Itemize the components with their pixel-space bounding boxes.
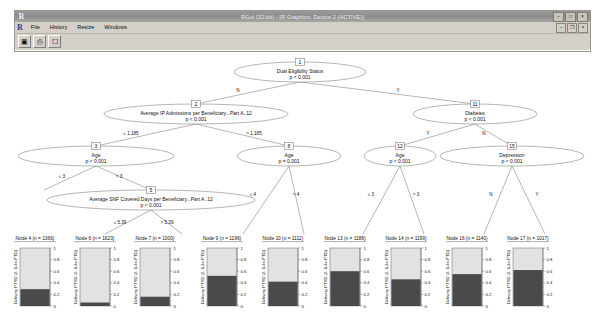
inner-node-5[interactable]: 5Average SNF Covered Days per Beneficiar…: [47, 187, 255, 211]
terminal-node-label-13: Node 13 (n = 1188): [324, 236, 366, 241]
maximize-button[interactable]: □: [565, 12, 576, 22]
edge-11-12: [400, 124, 475, 146]
y-tick-label-6-2: 0.4: [113, 280, 119, 285]
y-tick-label-14-2: 0.4: [424, 280, 430, 285]
edge-12-14: [400, 166, 424, 234]
edge-3-5: [96, 166, 151, 190]
new-graphics-window-button[interactable]: ☐: [48, 35, 61, 48]
title-bar[interactable]: R RGui (32-bit) - [R Graphics: Device 2 …: [15, 11, 590, 22]
node-id-label-15: 15: [509, 143, 515, 149]
node-id-label-12: 12: [397, 143, 403, 149]
y-tick-label-14-4: 0.8: [424, 257, 430, 262]
edge-12-13: [363, 166, 400, 234]
terminal-node-17[interactable]: Node 17 (n = 1017)00.20.40.60.81Delivery…: [506, 236, 553, 309]
edge-label-5-6: ≤ 5.39: [114, 220, 127, 225]
bar-proportion-14: [391, 279, 420, 306]
terminal-node-4[interactable]: Node 4 (n = 1366)00.20.40.60.81Delivery …: [13, 236, 60, 309]
y-tick-label-6-0: 0: [113, 304, 116, 309]
copy-to-clipboard-button[interactable]: ▣: [18, 35, 31, 48]
copy-icon: ▣: [21, 38, 28, 45]
inner-node-1[interactable]: 1Dual Eligibility Statusp < 0.001: [234, 59, 366, 83]
menu-item-history[interactable]: History: [45, 22, 72, 33]
menu-item-windows[interactable]: Windows: [99, 22, 132, 33]
inner-node-11[interactable]: 11Diabetesp < 0.001: [413, 101, 537, 125]
edge-label-8-9: ≤ 4: [250, 192, 257, 197]
terminal-node-13[interactable]: Node 13 (n = 1188)00.20.40.60.81Delivery…: [323, 236, 370, 309]
edge-label-12-14: > 3: [413, 192, 420, 197]
print-icon: ⎙: [37, 38, 43, 45]
inner-node-3[interactable]: 3Agep < 0.001: [18, 143, 174, 167]
mdi-minimize-button[interactable]: –: [556, 23, 566, 33]
node-variable-label-8: Age: [285, 152, 294, 158]
y-tick-label-14-3: 0.6: [424, 269, 430, 274]
y-tick-label-17-0: 0: [546, 304, 549, 309]
window-icon: ☐: [52, 38, 58, 45]
y-axis-title-17: Delivery PTSD (2..6.4e-PTD): [506, 249, 511, 304]
y-tick-label-13-0: 0: [363, 304, 366, 309]
mdi-restore-button[interactable]: ❐: [567, 23, 577, 33]
y-tick-label-7-3: 0.6: [173, 269, 179, 274]
print-button[interactable]: ⎙: [33, 35, 46, 48]
terminal-node-label-16: Node 16 (n = 1140): [446, 236, 488, 241]
node-pvalue-label-2: p < 0.001: [186, 116, 207, 122]
edge-label-5-7: > 5.39: [161, 220, 174, 225]
bar-proportion-7: [140, 297, 169, 306]
terminal-node-10[interactable]: Node 10 (n = 1112)00.20.40.60.81Delivery…: [261, 236, 308, 309]
node-variable-label-1: Dual Eligibility Status: [277, 68, 324, 74]
edge-2-8: [196, 124, 289, 146]
terminal-node-6[interactable]: Node 6 (n = 1623)00.20.40.60.81Delivery …: [73, 236, 120, 309]
y-tick-label-7-2: 0.4: [173, 280, 179, 285]
menu-item-resize[interactable]: Resize: [72, 22, 99, 33]
bar-proportion-4: [20, 289, 49, 306]
tree-terminal-nodes: Node 4 (n = 1366)00.20.40.60.81Delivery …: [13, 236, 553, 309]
node-variable-label-3: Age: [92, 152, 101, 158]
y-tick-label-16-3: 0.6: [485, 269, 491, 274]
edge-label-15-16: N: [489, 192, 492, 197]
y-tick-label-4-0: 0: [53, 304, 56, 309]
y-tick-label-10-4: 0.8: [301, 257, 307, 262]
node-id-label-8: 8: [288, 143, 291, 149]
y-tick-label-13-5: 1: [363, 246, 366, 251]
minimize-button[interactable]: –: [553, 12, 564, 22]
node-id-label-1: 1: [299, 59, 302, 65]
terminal-node-label-9: Node 9 (n = 1196): [203, 236, 242, 241]
terminal-node-16[interactable]: Node 16 (n = 1140)00.20.40.60.81Delivery…: [445, 236, 492, 309]
decision-tree-plot: NY≤ 1.185> 1.185YN≤ 3> 3≤ 5.39> 5.39≤ 4>…: [0, 52, 603, 320]
y-tick-label-10-2: 0.4: [301, 280, 307, 285]
y-tick-label-4-2: 0.4: [53, 280, 59, 285]
y-tick-label-9-2: 0.4: [240, 280, 246, 285]
window-controls: – □ ×: [553, 12, 588, 22]
edge-label-1-2: N: [236, 88, 239, 93]
y-tick-label-17-2: 0.4: [546, 280, 552, 285]
inner-node-12[interactable]: 12Agep < 0.001: [364, 143, 436, 167]
node-variable-label-15: Depression: [499, 152, 525, 158]
inner-node-2[interactable]: 2Average IP Admissions per Beneficiary..…: [104, 101, 288, 125]
mdi-close-button[interactable]: ×: [578, 23, 588, 33]
y-tick-label-4-3: 0.6: [53, 269, 59, 274]
y-tick-label-10-5: 1: [301, 246, 304, 251]
y-axis-title-10: Delivery PTSD (2..6.4e-PTD): [261, 249, 266, 304]
y-tick-label-13-3: 0.6: [363, 269, 369, 274]
y-tick-label-14-5: 1: [424, 246, 427, 251]
edge-label-3-4: ≤ 3: [59, 174, 66, 179]
inner-node-8[interactable]: 8Agep = 0.001: [237, 143, 341, 167]
terminal-node-14[interactable]: Node 14 (n = 1199)00.20.40.60.81Delivery…: [384, 236, 431, 309]
node-pvalue-label-3: p < 0.001: [86, 158, 107, 164]
bar-background-6: [80, 248, 110, 306]
y-tick-label-17-3: 0.6: [546, 269, 552, 274]
node-pvalue-label-11: p < 0.001: [465, 116, 486, 122]
menu-item-file[interactable]: File: [26, 22, 45, 33]
inner-node-15[interactable]: 15Depressionp < 0.001: [440, 143, 584, 167]
bar-proportion-13: [330, 271, 359, 306]
node-id-label-11: 11: [472, 101, 477, 107]
terminal-node-9[interactable]: Node 9 (n = 1196)00.20.40.60.81Delivery …: [200, 236, 247, 309]
y-axis-title-9: Delivery PTSD (2..6.4e-PTD): [200, 249, 205, 304]
close-button[interactable]: ×: [577, 12, 588, 22]
terminal-node-7[interactable]: Node 7 (n = 1000)00.20.40.60.81Delivery …: [133, 236, 180, 309]
node-pvalue-label-5: p < 0.001: [141, 202, 162, 208]
y-tick-label-16-1: 0.2: [485, 292, 491, 297]
node-id-label-3: 3: [95, 143, 98, 149]
edge-label-11-15: N: [482, 131, 485, 136]
edge-3-4: [44, 166, 96, 190]
edge-label-2-8: > 1.185: [246, 131, 262, 136]
